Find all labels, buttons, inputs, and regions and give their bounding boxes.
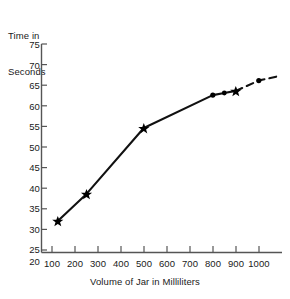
dot-marker-850 <box>222 91 227 96</box>
dot-marker-1000 <box>256 78 261 83</box>
plot-area <box>0 0 290 299</box>
axes <box>42 44 283 253</box>
x-axis-ticks <box>52 246 259 253</box>
dot-marker-800 <box>210 93 215 98</box>
data-point-markers <box>52 78 261 226</box>
data-line-solid <box>58 91 236 221</box>
chart-container: Time in Seconds 75 70 65 60 55 50 45 40 … <box>0 0 290 299</box>
y-axis-ticks <box>42 44 48 250</box>
data-line-dashed-extrapolation <box>236 76 281 91</box>
